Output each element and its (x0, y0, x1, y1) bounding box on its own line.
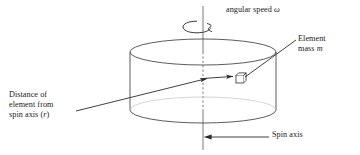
label-distance-from-spin-axis: Distance of element from spin axis (r) (9, 90, 53, 121)
element-mass-prefix: mass (298, 44, 315, 53)
distance-leader-line (76, 79, 207, 112)
distance-line2: element from (9, 100, 53, 110)
radius-arrow (203, 76, 233, 78)
label-spin-axis: Spin axis (272, 130, 303, 140)
spin-axis-leader (204, 134, 269, 139)
element-mass-line1: Element (298, 34, 326, 44)
distance-line1: Distance of (9, 90, 53, 100)
label-element-mass: Element mass m (298, 34, 326, 54)
distance-prefix: spin axis ( (9, 110, 43, 119)
distance-line3: spin axis (r) (9, 110, 53, 120)
rotating-cylinder-diagram: angular speed ω Element mass m Distance … (0, 0, 360, 155)
angular-speed-text: angular speed (226, 5, 272, 14)
diagram-canvas (0, 0, 360, 155)
omega-symbol: ω (274, 5, 280, 14)
mass-symbol: m (317, 44, 323, 53)
mass-element-cube (236, 73, 246, 83)
distance-suffix: ) (46, 110, 49, 119)
cylinder-bottom-back-arc (130, 97, 276, 110)
rotation-arrow (183, 21, 212, 33)
element-mass-line2: mass m (298, 44, 326, 54)
label-angular-speed: angular speed ω (226, 5, 280, 15)
element-mass-leader-line (245, 40, 296, 77)
